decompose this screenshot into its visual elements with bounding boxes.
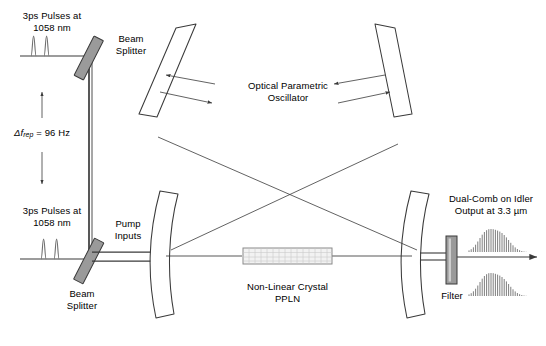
beam-splitter-top-label: Beam Splitter bbox=[100, 33, 162, 56]
output-filter[interactable] bbox=[446, 236, 457, 284]
opo-label: Optical Parametric Oscillator bbox=[216, 80, 360, 103]
mirror-top-right[interactable] bbox=[375, 24, 412, 117]
output-line1: Dual-Comb on Idler bbox=[449, 193, 533, 204]
filter-label: Filter bbox=[424, 290, 480, 302]
output-label: Dual-Comb on Idler Output at 3.3 µm bbox=[436, 193, 546, 216]
beam-splitter-bottom-label: Beam Splitter bbox=[51, 288, 113, 311]
crystal-line2: PPLN bbox=[275, 293, 300, 304]
opo-line1: Optical Parametric bbox=[248, 80, 328, 91]
rep-rate-subscript: rep bbox=[23, 131, 33, 138]
filter-label-text: Filter bbox=[441, 290, 463, 301]
splitter-link-path bbox=[89, 57, 92, 259]
comb-spectrum-upper bbox=[469, 229, 526, 252]
output-line2: Output at 3.3 µm bbox=[455, 205, 528, 216]
source-top-line2: 1058 nm bbox=[33, 22, 71, 33]
rep-rate-delta: Δf bbox=[14, 127, 23, 138]
pulse-train-bottom bbox=[20, 239, 96, 259]
source-bottom-line2: 1058 nm bbox=[33, 217, 71, 228]
source-label-top: 3ps Pulses at 1058 nm bbox=[6, 10, 98, 33]
source-top-line1: 3ps Pulses at bbox=[23, 10, 81, 21]
cavity-crossing-beams bbox=[158, 137, 417, 250]
mirror-curved-left[interactable] bbox=[150, 191, 178, 318]
bs-bottom-line2: Splitter bbox=[67, 300, 97, 311]
bs-top-line1: Beam bbox=[118, 33, 143, 44]
source-bottom-line1: 3ps Pulses at bbox=[23, 205, 81, 216]
ppln-crystal[interactable] bbox=[243, 248, 332, 264]
source-label-bottom: 3ps Pulses at 1058 nm bbox=[6, 205, 98, 228]
opo-line2: Oscillator bbox=[268, 92, 309, 103]
diagram-canvas: 3ps Pulses at 1058 nm Beam Splitter Δfre… bbox=[0, 0, 546, 346]
bs-bottom-line1: Beam bbox=[69, 288, 94, 299]
crystal-label: Non-Linear Crystal PPLN bbox=[215, 281, 360, 304]
pump-inputs-line2: Inputs bbox=[115, 230, 141, 241]
rep-rate-value: = 96 Hz bbox=[34, 127, 70, 138]
crystal-line1: Non-Linear Crystal bbox=[247, 281, 328, 292]
pulse-train-top bbox=[20, 36, 88, 56]
pump-inputs-label: Pump Inputs bbox=[99, 218, 157, 241]
bs-top-line2: Splitter bbox=[116, 45, 146, 56]
rep-rate-label: Δfrep = 96 Hz bbox=[2, 127, 82, 141]
pump-inputs-line1: Pump bbox=[115, 218, 140, 229]
